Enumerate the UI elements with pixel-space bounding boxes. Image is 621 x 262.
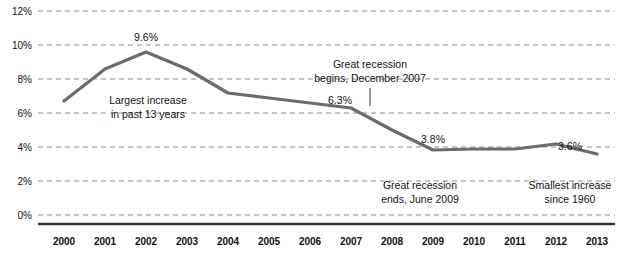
- xtick-label-2003: 2003: [176, 236, 199, 247]
- xtick-label-2013: 2013: [586, 236, 609, 247]
- annotation-largest-increase: Largest increase in past 13 years: [109, 94, 187, 120]
- data-label-2002: 9.6%: [134, 31, 158, 43]
- xtick-label-2011: 2011: [504, 236, 526, 247]
- xtick-label-2004: 2004: [217, 236, 240, 247]
- xtick-label-2000: 2000: [53, 236, 76, 247]
- ytick-label-4: 4%: [18, 142, 33, 153]
- annotation-great-recession-ends: Great recession ends, June 2009: [381, 179, 459, 205]
- annotation-great-recession-begins-line2: begins, December 2007: [314, 72, 426, 84]
- xtick-label-2010: 2010: [463, 236, 486, 247]
- annotation-great-recession-begins-line1: Great recession: [333, 58, 407, 70]
- data-label-2007: 6.3%: [328, 94, 352, 106]
- annotation-smallest-increase: Smallest increase since 1960: [529, 179, 612, 205]
- xtick-label-2001: 2001: [94, 236, 117, 247]
- ytick-label-10: 10%: [12, 40, 32, 51]
- xtick-label-2012: 2012: [545, 236, 568, 247]
- xtick-label-2009: 2009: [422, 236, 445, 247]
- data-label-2013: 3.6%: [558, 140, 582, 152]
- ytick-label-8: 8%: [18, 74, 33, 85]
- xtick-label-2006: 2006: [299, 236, 322, 247]
- data-label-2009: 3.8%: [421, 133, 445, 145]
- ytick-label-12: 12%: [12, 6, 32, 17]
- ytick-label-6: 6%: [18, 108, 33, 119]
- line-chart: 12% 10% 8% 6% 4% 2% 0% 9.6% 6.3% 3.8% 3.…: [0, 0, 621, 262]
- chart-container: 12% 10% 8% 6% 4% 2% 0% 9.6% 6.3% 3.8% 3.…: [0, 0, 621, 262]
- annotation-great-recession-ends-line1: Great recession: [383, 179, 457, 191]
- xtick-label-2007: 2007: [340, 236, 363, 247]
- ytick-label-0: 0%: [18, 210, 33, 221]
- annotation-largest-increase-line2: in past 13 years: [111, 108, 185, 120]
- xtick-label-2002: 2002: [135, 236, 158, 247]
- annotation-smallest-increase-line1: Smallest increase: [529, 179, 612, 191]
- xtick-label-2008: 2008: [381, 236, 404, 247]
- annotation-largest-increase-line1: Largest increase: [109, 94, 187, 106]
- ytick-label-2: 2%: [18, 176, 33, 187]
- xtick-label-2005: 2005: [258, 236, 281, 247]
- annotation-smallest-increase-line2: since 1960: [545, 193, 596, 205]
- annotation-great-recession-ends-line2: ends, June 2009: [381, 193, 459, 205]
